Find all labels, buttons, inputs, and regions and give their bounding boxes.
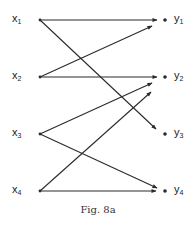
label-x4: x4 — [12, 184, 21, 198]
node-x2 — [39, 76, 42, 79]
node-x1 — [39, 19, 42, 22]
label-x2: x2 — [12, 70, 21, 84]
node-x4 — [39, 190, 42, 193]
edge-x3-y4 — [40, 134, 157, 188]
node-y1 — [163, 18, 167, 22]
figure-caption: Fig. 8a — [0, 204, 196, 215]
node-y2 — [163, 75, 167, 79]
edge-x2-y1 — [40, 26, 152, 77]
label-x3: x3 — [12, 127, 21, 141]
node-y4 — [163, 189, 167, 193]
label-y2: y2 — [174, 70, 183, 84]
node-y3 — [163, 132, 167, 136]
label-y1: y1 — [174, 13, 183, 27]
node-x3 — [39, 133, 42, 136]
bipartite-graph — [0, 0, 196, 231]
label-y3: y3 — [174, 127, 183, 141]
edges — [40, 20, 157, 191]
label-x1: x1 — [12, 13, 21, 27]
edge-x1-y3 — [40, 20, 156, 129]
label-y4: y4 — [174, 184, 183, 198]
edge-x3-y2 — [40, 83, 152, 134]
